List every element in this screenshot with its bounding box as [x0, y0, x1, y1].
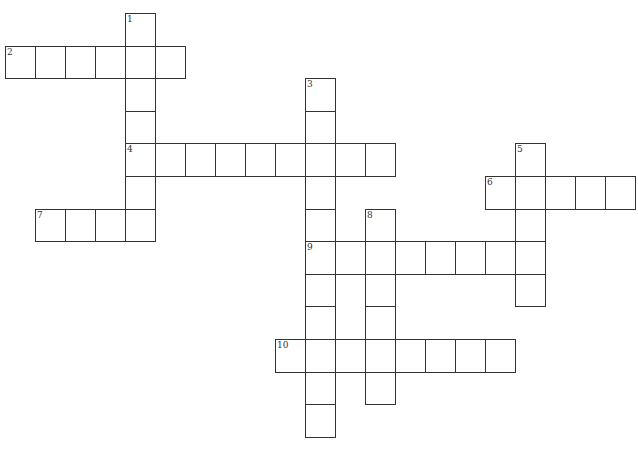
crossword-cell[interactable]	[335, 143, 366, 177]
crossword-cell[interactable]: 2	[5, 46, 36, 79]
clue-number: 5	[517, 144, 523, 154]
clue-number: 1	[127, 14, 133, 24]
crossword-cell[interactable]	[185, 143, 216, 177]
crossword-cell[interactable]	[305, 143, 336, 177]
crossword-cell[interactable]: 8	[365, 209, 396, 242]
crossword-cell[interactable]	[515, 176, 546, 210]
clue-number: 10	[277, 340, 288, 350]
crossword-cell[interactable]	[395, 339, 426, 373]
crossword-cell[interactable]	[35, 46, 66, 79]
crossword-cell[interactable]	[125, 111, 156, 144]
crossword-cell[interactable]	[245, 143, 276, 177]
crossword-cell[interactable]: 9	[305, 241, 336, 275]
clue-number: 7	[37, 210, 43, 220]
crossword-cell[interactable]	[305, 209, 336, 242]
clue-number: 4	[127, 144, 133, 154]
crossword-cell[interactable]	[365, 372, 396, 405]
crossword-cell[interactable]	[365, 274, 396, 307]
crossword-cell[interactable]: 10	[275, 339, 306, 373]
crossword-cell[interactable]	[365, 339, 396, 373]
clue-number: 3	[307, 79, 313, 89]
crossword-cell[interactable]	[305, 339, 336, 373]
crossword-cell[interactable]	[605, 176, 636, 210]
crossword-cell[interactable]	[455, 339, 486, 373]
crossword-cell[interactable]: 6	[485, 176, 516, 210]
crossword-cell[interactable]	[335, 241, 366, 275]
clue-number: 6	[487, 177, 493, 187]
crossword-cell[interactable]	[155, 46, 186, 79]
crossword-cell[interactable]	[575, 176, 606, 210]
crossword-cell[interactable]	[95, 209, 126, 242]
crossword-cell[interactable]	[125, 176, 156, 210]
crossword-cell[interactable]	[365, 143, 396, 177]
crossword-cell[interactable]: 3	[305, 78, 336, 112]
clue-number: 8	[367, 210, 373, 220]
crossword-cell[interactable]	[395, 241, 426, 275]
crossword-cell[interactable]	[425, 339, 456, 373]
crossword-cell[interactable]	[485, 241, 516, 275]
crossword-cell[interactable]	[365, 241, 396, 275]
crossword-cell[interactable]	[335, 339, 366, 373]
crossword-cell[interactable]: 1	[125, 13, 156, 47]
crossword-cell[interactable]: 5	[515, 143, 546, 177]
crossword-cell[interactable]	[125, 78, 156, 112]
crossword-cell[interactable]	[65, 46, 96, 79]
crossword-cell[interactable]	[305, 404, 336, 438]
crossword-cell[interactable]	[125, 46, 156, 79]
crossword-cell[interactable]	[515, 209, 546, 242]
crossword-cell[interactable]	[65, 209, 96, 242]
crossword-cell[interactable]	[365, 306, 396, 340]
crossword-cell[interactable]	[305, 176, 336, 210]
crossword-cell[interactable]	[305, 111, 336, 144]
crossword-cell[interactable]	[125, 209, 156, 242]
crossword-cell[interactable]	[305, 274, 336, 307]
crossword-cell[interactable]	[515, 274, 546, 307]
crossword-cell[interactable]	[155, 143, 186, 177]
crossword-cell[interactable]	[485, 339, 516, 373]
crossword-cell[interactable]	[275, 143, 306, 177]
crossword-cell[interactable]	[95, 46, 126, 79]
crossword-cell[interactable]	[215, 143, 246, 177]
crossword-cell[interactable]	[305, 372, 336, 405]
crossword-cell[interactable]	[455, 241, 486, 275]
clue-number: 9	[307, 242, 313, 252]
crossword-cell[interactable]	[425, 241, 456, 275]
crossword-cell[interactable]	[305, 306, 336, 340]
crossword-cell[interactable]	[545, 176, 576, 210]
clue-number: 2	[7, 47, 13, 57]
crossword-cell[interactable]	[515, 241, 546, 275]
crossword-cell[interactable]: 4	[125, 143, 156, 177]
crossword-cell[interactable]: 7	[35, 209, 66, 242]
